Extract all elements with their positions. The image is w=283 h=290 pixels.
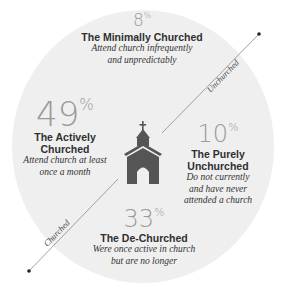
desc-purely-1: Do not currently bbox=[178, 172, 258, 184]
percent-minimally: 8% bbox=[72, 12, 212, 29]
desc-dechurched-1: Were once active in church bbox=[88, 244, 200, 256]
title-actively-2: Churched bbox=[22, 143, 108, 155]
segment-purely-unchurched: 10% The Purely Unchurched Do not current… bbox=[178, 122, 258, 207]
desc-purely-2: and have never bbox=[178, 184, 258, 196]
segment-minimally-churched: 8% The Minimally Churched Attend church … bbox=[72, 12, 212, 66]
title-minimally: The Minimally Churched bbox=[72, 31, 212, 43]
segment-actively-churched: 49% The Actively Churched Attend church … bbox=[22, 97, 108, 178]
desc-minimally-2: and unpredictably bbox=[72, 55, 212, 67]
percent-purely: 10% bbox=[178, 122, 258, 146]
church-icon bbox=[124, 121, 162, 184]
title-purely-2: Unchurched bbox=[178, 160, 258, 172]
desc-purely-3: attended a church bbox=[178, 195, 258, 207]
desc-actively-1: Attend church at least bbox=[22, 155, 108, 167]
title-actively-1: The Actively bbox=[22, 131, 108, 143]
segment-de-churched: 33% The De-Churched Were once active in … bbox=[88, 207, 200, 267]
desc-dechurched-2: but are no longer bbox=[88, 256, 200, 268]
percent-dechurched: 33% bbox=[88, 207, 200, 231]
unchurched-end-dot bbox=[257, 32, 261, 36]
desc-minimally-1: Attend church infrequently bbox=[72, 43, 212, 55]
title-purely-1: The Purely bbox=[178, 148, 258, 160]
title-dechurched: The De-Churched bbox=[88, 232, 200, 244]
desc-actively-2: once a month bbox=[22, 167, 108, 179]
churched-end-dot bbox=[27, 269, 31, 273]
percent-actively: 49% bbox=[22, 97, 108, 131]
